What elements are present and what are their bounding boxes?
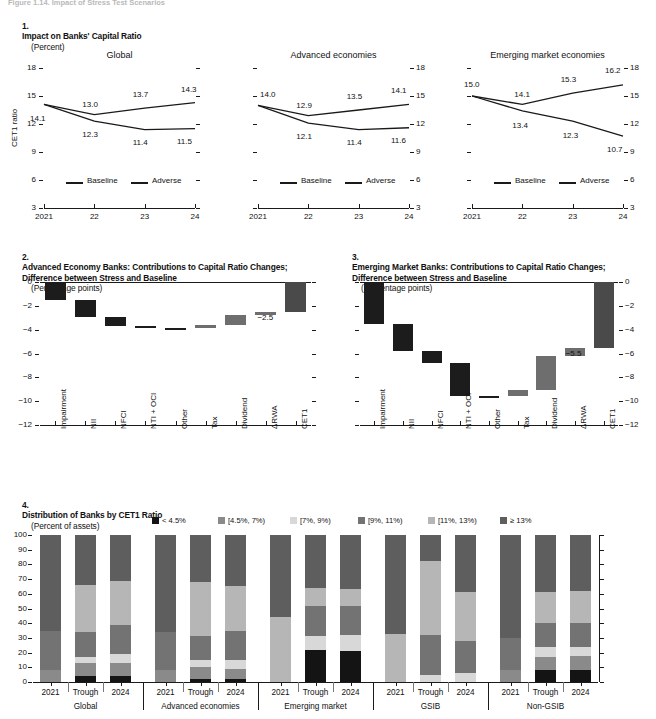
stacked-bar-11 <box>455 535 477 682</box>
stacked-bar-7 <box>305 535 327 682</box>
data-label-advanced-economies-4: 12.1 <box>296 132 312 141</box>
bar-segment-9-5 <box>385 535 407 633</box>
chart-title-emerging-market-economies: Emerging market economies <box>432 50 656 60</box>
y-tick-right-em-waterfall <box>619 282 623 283</box>
p4-y-tick-label-30: 30 <box>1 633 27 642</box>
y-tick-label-global-15: 15 <box>10 91 36 100</box>
x-tick-em-waterfall-6 <box>546 421 547 425</box>
data-label-emerging-market-economies-5: 12.3 <box>563 131 579 140</box>
legend-label-adverse-advanced-economies: Adverse <box>366 176 395 185</box>
data-label-advanced-economies-5: 11.4 <box>347 138 362 147</box>
series-lines-global <box>0 0 656 719</box>
x-tick-ae-waterfall-4 <box>176 421 177 425</box>
y-tick-left-emerging-market-economies <box>467 96 471 97</box>
waterfall-bar-ae-waterfall-1 <box>75 300 96 317</box>
p4-y-tick-label-60: 60 <box>1 589 27 598</box>
panel-1-number: 1. <box>22 21 29 31</box>
total-label-em-waterfall: −5.5 <box>566 349 582 358</box>
x-category-label-em-waterfall-5: Tax <box>522 417 531 429</box>
x-tick-advanced-economies-0 <box>258 204 259 208</box>
x-category-label-em-waterfall-0: Impairment <box>378 389 387 429</box>
p4-x-tick-12 <box>511 682 512 686</box>
data-label-advanced-economies-1: 12.9 <box>296 101 312 110</box>
y-tick-label-emerging-market-economies-6: 6 <box>630 175 656 184</box>
y-tick-left-advanced-economies <box>253 180 257 181</box>
p4-y-tick-label-40: 40 <box>1 618 27 627</box>
p4-x-tick-1 <box>86 682 87 686</box>
data-label-advanced-economies-2: 13.5 <box>347 92 363 101</box>
x-category-label-ae-waterfall-1: NII <box>89 419 98 429</box>
y-tick-label-global-9: 9 <box>10 147 36 156</box>
p4-y-tick-left-30 <box>28 638 32 639</box>
y-tick-left-em-waterfall <box>355 354 359 355</box>
p4-y-tick-right-10 <box>600 667 604 668</box>
y-tick-right-advanced-economies <box>410 180 414 181</box>
waterfall-bar-em-waterfall-2 <box>422 351 442 363</box>
p4-x-tick-2 <box>121 682 122 686</box>
x-tick-emerging-market-economies-1 <box>522 204 523 208</box>
bar-segment-7-2 <box>305 636 327 649</box>
chart-title-advanced-economies: Advanced economies <box>218 50 449 60</box>
x-category-label-ae-waterfall-7: ΔRWA <box>270 405 279 429</box>
waterfall-bar-em-waterfall-3 <box>450 363 470 396</box>
x-tick-advanced-economies-1 <box>308 204 309 208</box>
figure-root: Figure 1.14. Impact of Stress Test Scena… <box>0 0 656 719</box>
x-tick-advanced-economies-2 <box>359 204 360 208</box>
p4-y-tick-label-90: 90 <box>1 545 27 554</box>
y-tick-right-advanced-economies <box>410 152 414 153</box>
y-tick-right-global <box>196 68 200 69</box>
y-tick-right-em-waterfall <box>619 401 623 402</box>
panel-2-title-text: Advanced Economy Banks: Contributions to… <box>22 262 287 283</box>
legend-label-0: < 4.5% <box>162 516 186 525</box>
series-lines-advanced-economies <box>0 0 656 719</box>
x-tick-ae-waterfall-8 <box>296 421 297 425</box>
series-emerging-market-economies-adverse <box>472 96 623 136</box>
bar-segment-8-4 <box>340 589 362 605</box>
y-tick-left-advanced-economies <box>253 124 257 125</box>
y-tick-left-ae-waterfall <box>35 306 39 307</box>
y-tick-left-advanced-economies <box>253 208 257 209</box>
bar-segment-2-5 <box>110 535 132 581</box>
p4-bar-separator-2-0 <box>298 682 299 692</box>
p4-y-tick-right-40 <box>600 623 604 624</box>
data-label-global-5: 11.4 <box>133 138 148 147</box>
p4-x-tick-13 <box>546 682 547 686</box>
panel-3-number: 3. <box>352 252 359 262</box>
bar-segment-13-3 <box>535 623 557 647</box>
x-tick-em-waterfall-7 <box>575 421 576 425</box>
y-tick-right-ae-waterfall <box>312 282 316 283</box>
waterfall-bar-ae-waterfall-8 <box>285 282 306 312</box>
x-tick-global-0 <box>44 204 45 208</box>
y-tick-label-em-waterfall-0: 0 <box>625 277 653 286</box>
y-tick-right-global <box>196 96 200 97</box>
legend-line-adverse-emerging-market-economies <box>559 182 576 184</box>
x-category-label-ae-waterfall-2: NFCI <box>119 410 128 429</box>
bar-segment-11-3 <box>455 641 477 673</box>
x-tick-label-emerging-market-economies-2: 23 <box>553 212 593 221</box>
p4-group-label-1: Advanced economies <box>138 702 263 711</box>
x-tick-label-advanced-economies-2: 23 <box>339 212 379 221</box>
legend-swatch-1 <box>218 517 225 524</box>
bar-segment-14-1 <box>570 656 592 671</box>
y-tick-label-emerging-market-economies-3: 3 <box>630 203 656 212</box>
x-tick-advanced-economies-3 <box>409 204 410 208</box>
legend-label-2: [7%, 9%) <box>300 516 331 525</box>
x-category-label-ae-waterfall-4: Other <box>180 409 189 429</box>
bar-segment-1-2 <box>75 657 97 663</box>
p4-bar-separator-3-1 <box>448 682 449 692</box>
stacked-bar-8 <box>340 535 362 682</box>
x-category-label-em-waterfall-4: Other <box>493 409 502 429</box>
y-tick-label-em-waterfall--2: −2 <box>625 301 653 310</box>
bar-segment-0-5 <box>40 535 62 631</box>
x-tick-em-waterfall-8 <box>604 421 605 425</box>
x-tick-ae-waterfall-1 <box>85 421 86 425</box>
bar-segment-4-2 <box>190 660 212 667</box>
p4-y-tick-right-50 <box>600 609 604 610</box>
x-tick-ae-waterfall-7 <box>266 421 267 425</box>
bar-segment-13-2 <box>535 647 557 657</box>
stacked-bar-3 <box>155 535 177 682</box>
bar-segment-7-0 <box>305 650 327 682</box>
y-tick-right-global <box>196 152 200 153</box>
x-tick-ae-waterfall-0 <box>55 421 56 425</box>
x-tick-label-emerging-market-economies-1: 22 <box>502 212 542 221</box>
